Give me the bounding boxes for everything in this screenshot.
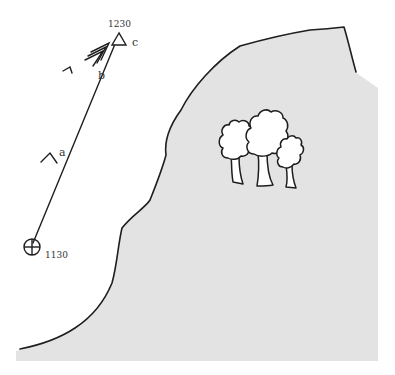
- arrow-head-icon: [63, 67, 72, 73]
- end-time-label: 1230: [108, 19, 131, 29]
- start-point-icon: [24, 239, 40, 255]
- hill-fill: [16, 27, 378, 361]
- leg-b-label: b: [98, 69, 105, 82]
- start-time-label: 1130: [45, 250, 68, 260]
- end-point-label: c: [132, 36, 138, 49]
- triangle-icon: [112, 33, 126, 45]
- navigation-diagram: 1130 1230 c a b: [0, 0, 395, 375]
- arrow-head-icon: [41, 153, 57, 163]
- hill: [16, 27, 378, 361]
- leg-a-label: a: [59, 146, 66, 159]
